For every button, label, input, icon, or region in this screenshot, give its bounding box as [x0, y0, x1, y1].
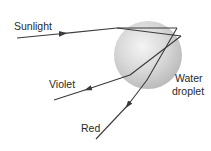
- red-label: Red: [81, 122, 100, 134]
- rainbow-dispersion-diagram: Sunlight Violet Red Water droplet: [0, 0, 211, 151]
- sunlight-label: Sunlight: [14, 20, 52, 32]
- violet-label: Violet: [49, 78, 75, 90]
- water-droplet-label-line1: Water: [175, 72, 203, 84]
- water-droplet-label-line2: droplet: [172, 85, 204, 97]
